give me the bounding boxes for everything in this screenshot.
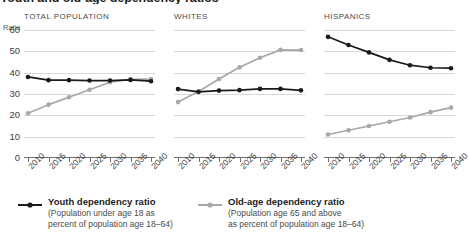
data-point [149, 79, 154, 84]
panel-title: WHITES [174, 12, 208, 21]
data-point [237, 65, 242, 70]
series-line [328, 37, 451, 68]
data-point [258, 87, 263, 92]
series-layer [24, 30, 155, 158]
data-point [46, 78, 51, 83]
data-point [428, 65, 433, 70]
panel-title: TOTAL POPULATION [24, 12, 109, 21]
chart-panel: WHITES2010201520202025203020352040 [174, 30, 305, 158]
legend-sub1-youth: (Population under age 18 as [48, 208, 155, 218]
y-axis-tick-label: 60 [0, 24, 20, 35]
legend-swatch-oldage-icon [198, 200, 222, 210]
data-point [299, 48, 304, 53]
data-point [46, 102, 51, 107]
data-point [176, 100, 181, 105]
data-point [128, 78, 133, 83]
data-point [326, 35, 331, 40]
panel-title: HISPANICS [324, 12, 371, 21]
y-axis-tick-label: 20 [0, 109, 20, 120]
data-point [108, 78, 113, 83]
series-line [28, 79, 151, 113]
y-axis-tick-label: 50 [0, 45, 20, 56]
legend-label-youth: Youth dependency ratio [48, 196, 156, 207]
legend-sub2-youth: percent of population age 18–64) [48, 219, 173, 229]
legend-sub1-oldage: (Population age 65 and above [228, 208, 341, 218]
chart-title: Youth and old-age dependency ratios [0, 0, 463, 4]
data-point [299, 88, 304, 93]
data-point [326, 132, 331, 137]
chart-panel: TOTAL POPULATION201020152020202520302035… [24, 30, 155, 158]
data-point [237, 88, 242, 93]
plot-area: 2010201520202025203020352040 [174, 30, 305, 158]
plot-area: 2010201520202025203020352040 [24, 30, 155, 158]
data-point [26, 75, 31, 80]
data-point [26, 111, 31, 116]
data-point [176, 87, 181, 92]
data-point [367, 124, 372, 129]
series-layer [174, 30, 305, 158]
data-point [346, 43, 351, 48]
data-point [258, 55, 263, 60]
data-point [278, 48, 283, 53]
series-line [178, 50, 301, 102]
data-point [408, 115, 413, 120]
data-point [449, 66, 454, 71]
y-axis-tick-label: 30 [0, 88, 20, 99]
chart-panel: HISPANICS2010201520202025203020352040 [324, 30, 455, 158]
data-point [67, 78, 72, 83]
data-point [408, 63, 413, 68]
data-point [87, 87, 92, 92]
y-axis-tick-label: 40 [0, 67, 20, 78]
legend-swatch-youth-icon [18, 200, 42, 210]
data-point [67, 95, 72, 100]
data-point [217, 77, 222, 82]
data-point [428, 110, 433, 115]
y-axis-tick-label: 0 [0, 152, 20, 163]
data-point [196, 90, 201, 95]
data-point [387, 58, 392, 63]
series-layer [324, 30, 455, 158]
data-point [87, 78, 92, 83]
data-point [449, 105, 454, 110]
legend-sub2-oldage: as percent of population age 18–64) [228, 219, 364, 229]
data-point [346, 128, 351, 133]
plot-area: 2010201520202025203020352040 [324, 30, 455, 158]
data-point [367, 50, 372, 55]
data-point [387, 119, 392, 124]
data-point [217, 88, 222, 93]
y-axis-tick-label: 10 [0, 131, 20, 142]
chart-legend: Youth dependency ratio (Population under… [0, 196, 463, 242]
legend-label-oldage: Old-age dependency ratio [228, 196, 345, 207]
data-point [278, 87, 283, 92]
